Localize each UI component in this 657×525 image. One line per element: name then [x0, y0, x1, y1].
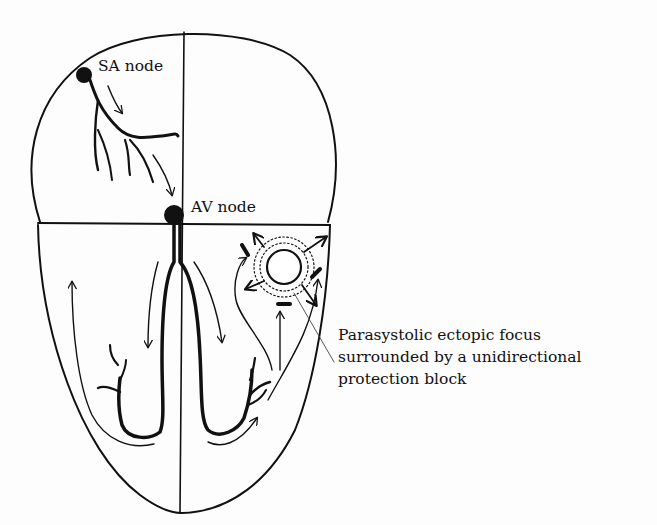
- sa-node-label: SA node: [98, 56, 163, 77]
- ectopic-focus-label: Parasystolic ectopic focus surrounded by…: [338, 325, 582, 391]
- ectopic-focus-label-line: protection block: [338, 369, 582, 391]
- septum-line: [180, 32, 184, 513]
- av-node-label: AV node: [191, 197, 256, 218]
- av-plane-line: [38, 223, 330, 225]
- heart-diagram: [0, 0, 657, 525]
- ectopic-focus: [242, 234, 326, 305]
- ectopic-focus-label-line: surrounded by a unidirectional: [338, 347, 582, 369]
- ectopic-focus-label-line: Parasystolic ectopic focus: [338, 325, 582, 347]
